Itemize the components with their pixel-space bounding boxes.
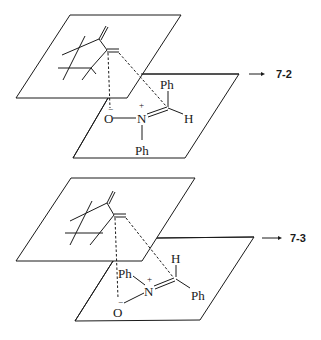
atom-ph-right: Ph	[191, 288, 205, 303]
product-arrow-top: 7-2	[249, 68, 292, 80]
panel-bottom: H Ph N + Ph O − 7-3	[16, 178, 306, 321]
cycloaddition-transition-state-diagram: Ph H N + O − Ph 7-2	[0, 0, 321, 340]
atom-ph-bottom: Ph	[135, 143, 149, 158]
atom-h-bottom: H	[171, 251, 180, 266]
product-label-7-3: 7-3	[290, 232, 306, 244]
product-arrow-bottom: 7-3	[262, 232, 306, 244]
charge-minus-bottom: −	[118, 297, 123, 307]
charge-minus-top: −	[108, 104, 113, 114]
charge-plus-top: +	[139, 100, 144, 110]
product-label-7-2: 7-2	[276, 68, 292, 80]
atom-n-top: N	[137, 111, 147, 126]
atom-h-top: H	[184, 111, 193, 126]
panel-top: Ph H N + O − Ph 7-2	[16, 15, 292, 158]
atom-n-bottom: N	[144, 284, 154, 299]
atom-ph-top: Ph	[160, 77, 174, 92]
charge-plus-bottom: +	[147, 274, 152, 284]
atom-ph-left: Ph	[118, 266, 132, 281]
atom-o-bottom: O	[113, 305, 122, 320]
